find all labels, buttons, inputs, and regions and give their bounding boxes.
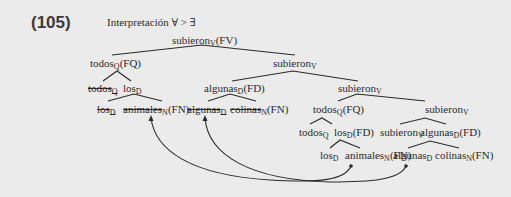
node-subieron-v-l4: subieronV: [425, 103, 469, 115]
node-todos-q-lower: todosQ: [299, 126, 329, 138]
branch-algunasfd-lower: [408, 141, 459, 148]
node-animales-fn-struck: animalesN(FN): [123, 103, 189, 115]
node-colinas-fn-struck: colinasN(FN): [230, 103, 288, 115]
branch-losfd-lower: [330, 140, 360, 148]
node-subieron-v-l5: subieronV: [380, 126, 424, 138]
branch-algunasfd: [208, 94, 256, 101]
branch-l4: [400, 118, 446, 124]
branch-fq-lower: [310, 118, 332, 124]
branch-root: [112, 45, 295, 55]
tree-branches: [0, 0, 511, 197]
node-los-d-struck: losD: [97, 103, 116, 115]
node-subieron-v-l3: subieronV: [338, 82, 382, 94]
node-algunas-d-struck: algunasD: [187, 103, 226, 115]
node-algunas-fd-lower: algunasD(FD): [420, 126, 481, 138]
node-root: subieronV(FV): [172, 34, 237, 46]
node-subieron-v: subieronV: [273, 57, 317, 69]
branch-l2: [232, 71, 358, 81]
branch-fq: [103, 71, 131, 81]
node-algunas-d-lower: algunasD: [393, 149, 432, 161]
node-los-d: losD: [123, 82, 142, 94]
node-algunas-fd: algunasD(FD): [204, 82, 265, 94]
node-los-fd: losD(FD): [334, 126, 374, 138]
node-los-d-lower: losD: [320, 149, 339, 161]
node-todos-fq: todosQ(FQ): [90, 57, 141, 69]
node-todos-fq-lower: todosQ(FQ): [313, 103, 364, 115]
node-todos-q-struck: todosQ: [88, 82, 118, 94]
node-colinas-fn: colinasN(FN): [435, 149, 493, 161]
